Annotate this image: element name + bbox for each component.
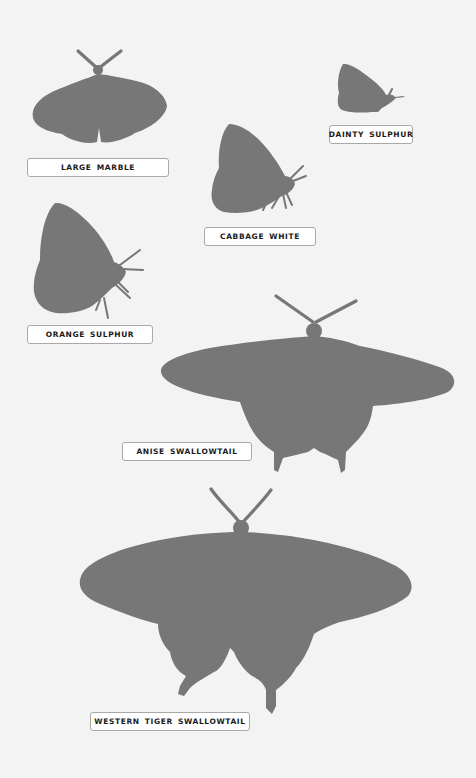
large-marble-silhouette [33,51,167,143]
cabbage-white-silhouette [212,124,307,213]
label-large-marble: LARGE MARBLE [27,158,169,177]
label-dainty-sulphur: DAINTY SULPHUR [329,125,413,144]
label-cabbage-white: CABBAGE WHITE [204,227,316,246]
orange-sulphur-silhouette [34,203,143,318]
label-western-tiger-swallowtail: WESTERN TIGER SWALLOWTAIL [90,712,250,731]
label-anise-swallowtail: ANISE SWALLOWTAIL [122,442,252,461]
butterfly-size-comparison: LARGE MARBLE DAINTY SULPHUR CABBAGE WHIT… [0,0,476,778]
dainty-sulphur-silhouette [338,64,405,113]
western-tiger-swallowtail-silhouette [80,489,412,714]
label-orange-sulphur: ORANGE SULPHUR [27,325,153,344]
silhouettes-layer [0,0,476,778]
